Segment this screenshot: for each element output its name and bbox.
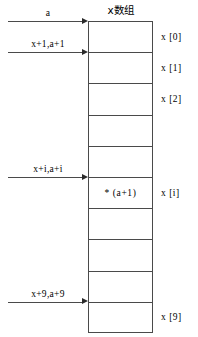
array-cell-4: [89, 147, 152, 178]
arrow-head-icon: [82, 49, 88, 55]
arrow-head-icon: [82, 174, 88, 180]
array-title: x数组: [88, 2, 153, 17]
index-label-0: x [0]: [161, 32, 182, 42]
array-cell-9: [89, 303, 152, 334]
array-cell-6: [89, 209, 152, 240]
pointer-label: x+i,a+i: [8, 164, 88, 174]
pointer-label: x+1,a+1: [8, 39, 88, 49]
index-label-2: x [2]: [161, 94, 182, 104]
pointer-shaft: [8, 302, 82, 303]
arrow-head-icon: [82, 298, 88, 304]
pointer-shaft: [8, 52, 82, 53]
pointer-label: a: [8, 8, 88, 18]
index-label-1: x [1]: [161, 63, 182, 73]
array-cell-1: [89, 53, 152, 84]
array-cell-8: [89, 272, 152, 303]
arrow-head-icon: [82, 18, 88, 24]
pointer-label: x+9,a+9: [8, 289, 88, 299]
index-label-9: x [9]: [161, 312, 182, 322]
array-cell-5: * (a+1): [89, 178, 152, 209]
index-label-i: x [i]: [161, 188, 180, 198]
array-box: * (a+1): [88, 21, 153, 333]
pointer-shaft: [8, 21, 82, 22]
array-pointer-diagram: x数组 * (a+1) x [0]: [0, 0, 198, 337]
array-cell-7: [89, 240, 152, 271]
array-cell-3: [89, 116, 152, 147]
array-cell-0: [89, 22, 152, 53]
array-cell-content: * (a+1): [89, 188, 152, 198]
array-cell-2: [89, 84, 152, 115]
pointer-shaft: [8, 177, 82, 178]
